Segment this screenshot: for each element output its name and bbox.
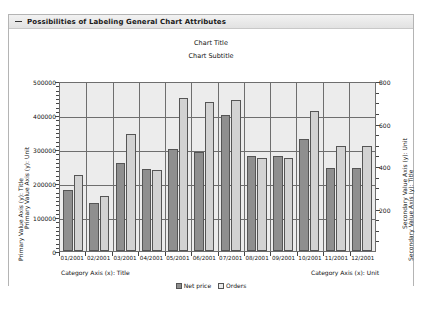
primary-axis-minor-tick (56, 103, 59, 104)
primary-axis-tick-mark (55, 116, 59, 117)
secondary-axis-minor-tick (376, 188, 379, 189)
bar-orders[interactable] (205, 102, 214, 251)
legend-swatch-net-price (176, 283, 182, 289)
bar-orders[interactable] (231, 100, 240, 251)
bar-group (270, 83, 296, 251)
primary-axis-minor-tick (56, 154, 59, 155)
bar-orders[interactable] (362, 146, 371, 251)
secondary-axis-tick-label: 800 (379, 79, 409, 86)
secondary-axis-title-label: Secondary Value Axis (y): Title (407, 170, 414, 261)
category-tick-mark (350, 252, 351, 256)
category-tick-mark (112, 252, 113, 256)
panel-title: Possibilities of Labeling General Chart … (27, 18, 226, 26)
category-tick-label: 12/2001 (351, 255, 374, 261)
bar-orders[interactable] (310, 111, 319, 251)
secondary-axis-minor-tick (376, 146, 379, 147)
primary-axis-tick-label: 200000 (23, 181, 56, 188)
primary-axis-tick-label: 400000 (23, 113, 56, 120)
primary-axis-tick-mark (55, 218, 59, 219)
legend-label-orders: Orders (226, 282, 246, 289)
bar-orders[interactable] (257, 158, 266, 252)
primary-axis-tick-label: 500000 (23, 79, 56, 86)
bar-net-price[interactable] (326, 168, 335, 251)
secondary-axis-minor-tick (376, 93, 379, 94)
bar-orders[interactable] (336, 146, 345, 251)
legend-item-net-price[interactable]: Net price (176, 282, 211, 289)
primary-axis-minor-tick (56, 171, 59, 172)
secondary-axis-minor-tick (376, 241, 379, 242)
bar-orders[interactable] (74, 175, 83, 252)
bar-group (139, 83, 165, 251)
category-tick-mark (191, 252, 192, 256)
bar-net-price[interactable] (142, 169, 151, 251)
primary-axis-minor-tick (56, 137, 59, 138)
primary-axis-minor-tick (56, 188, 59, 189)
bar-series-group (60, 83, 375, 251)
category-tick-label: 01/2001 (61, 255, 84, 261)
primary-axis-tick-label: 0 (23, 249, 56, 256)
category-tick-label: 09/2001 (272, 255, 295, 261)
bar-group (349, 83, 375, 251)
category-tick-label: 11/2001 (325, 255, 348, 261)
primary-axis-minor-tick (56, 159, 59, 160)
chart-panel: Possibilities of Labeling General Chart … (8, 14, 414, 286)
bar-net-price[interactable] (168, 149, 177, 251)
category-tick-mark (218, 252, 219, 256)
primary-axis-minor-tick (56, 205, 59, 206)
primary-axis-minor-tick (56, 133, 59, 134)
bar-net-price[interactable] (247, 156, 256, 251)
primary-axis-minor-tick (56, 180, 59, 181)
primary-axis-minor-tick (56, 163, 59, 164)
bar-group (323, 83, 349, 251)
bar-group (60, 83, 86, 251)
bar-orders[interactable] (284, 158, 293, 252)
category-tick-mark (138, 252, 139, 256)
bar-net-price[interactable] (63, 190, 72, 251)
primary-axis-minor-tick (56, 197, 59, 198)
primary-axis-minor-tick (56, 214, 59, 215)
primary-axis-tick-mark (55, 150, 59, 151)
secondary-axis-tick-label: 400 (379, 164, 409, 171)
primary-axis-minor-tick (56, 120, 59, 121)
bar-net-price[interactable] (352, 168, 361, 251)
bar-orders[interactable] (100, 196, 109, 251)
bar-orders[interactable] (179, 98, 188, 251)
primary-axis-minor-tick (56, 244, 59, 245)
secondary-axis-tick-mark (376, 125, 380, 126)
bar-net-price[interactable] (273, 156, 282, 251)
primary-axis-minor-tick (56, 112, 59, 113)
chart-legend: Net price Orders (9, 282, 413, 289)
secondary-axis-tick-mark (376, 167, 380, 168)
primary-axis-minor-tick (56, 95, 59, 96)
bar-net-price[interactable] (116, 163, 125, 251)
primary-axis-tick-mark (55, 82, 59, 83)
category-axis-title-label: Category Axis (x): Title (61, 269, 130, 276)
bar-net-price[interactable] (89, 203, 98, 251)
primary-axis-tick-mark (55, 184, 59, 185)
secondary-axis-tick-label: 200 (379, 206, 409, 213)
category-tick-mark (85, 252, 86, 256)
bar-group (86, 83, 112, 251)
primary-axis-minor-tick (56, 231, 59, 232)
category-tick-label: 08/2001 (246, 255, 269, 261)
secondary-axis-minor-tick (376, 231, 379, 232)
category-tick-mark (59, 252, 60, 256)
primary-axis-minor-tick (56, 108, 59, 109)
category-axis-unit-label: Category Axis (x): Unit (311, 269, 379, 276)
primary-axis-minor-tick (56, 201, 59, 202)
panel-header[interactable]: Possibilities of Labeling General Chart … (9, 15, 413, 29)
bar-net-price[interactable] (299, 139, 308, 251)
primary-axis-minor-tick (56, 91, 59, 92)
bar-group (113, 83, 139, 251)
bar-group (296, 83, 322, 251)
bar-net-price[interactable] (194, 152, 203, 251)
primary-axis-minor-tick (56, 99, 59, 100)
collapse-triangle-icon[interactable] (15, 18, 22, 25)
bar-orders[interactable] (126, 134, 135, 251)
secondary-axis-tick-mark (376, 210, 380, 211)
primary-axis-minor-tick (56, 227, 59, 228)
bar-orders[interactable] (152, 170, 161, 251)
bar-net-price[interactable] (221, 115, 230, 251)
secondary-axis-tick-label: 600 (379, 121, 409, 128)
legend-item-orders[interactable]: Orders (218, 282, 246, 289)
